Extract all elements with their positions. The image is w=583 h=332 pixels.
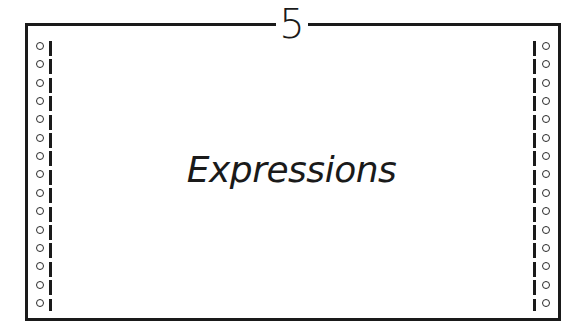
feed-hole-icon: [36, 281, 44, 289]
feed-hole-icon: [542, 226, 550, 234]
feed-hole-icon: [36, 244, 44, 252]
feed-hole-icon: [542, 189, 550, 197]
chapter-title: Expressions: [0, 148, 583, 192]
feed-hole-icon: [36, 226, 44, 234]
feed-hole-icon: [542, 299, 550, 307]
feed-hole-icon: [36, 79, 44, 87]
feed-hole-icon: [36, 97, 44, 105]
feed-hole-icon: [542, 281, 550, 289]
feed-hole-icon: [36, 134, 44, 142]
feed-hole-icon: [542, 244, 550, 252]
feed-hole-icon: [36, 42, 44, 50]
chapter-number: 5: [276, 4, 308, 44]
feed-hole-icon: [542, 134, 550, 142]
feed-hole-icon: [542, 79, 550, 87]
left-perforation-line: [49, 41, 52, 311]
right-perforation-line: [533, 41, 536, 311]
feed-hole-icon: [36, 189, 44, 197]
feed-hole-icon: [542, 42, 550, 50]
feed-hole-icon: [36, 299, 44, 307]
feed-hole-icon: [542, 97, 550, 105]
